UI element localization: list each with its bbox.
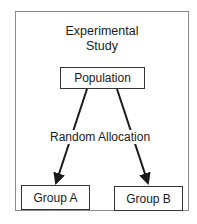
group-a-label: Group A bbox=[33, 191, 77, 205]
group-a-node: Group A bbox=[21, 185, 90, 210]
group-b-node: Group B bbox=[114, 186, 183, 211]
group-b-label: Group B bbox=[126, 192, 171, 206]
population-node: Population bbox=[60, 67, 145, 89]
population-label: Population bbox=[74, 71, 131, 85]
random-allocation-label: Random Allocation bbox=[50, 130, 150, 144]
